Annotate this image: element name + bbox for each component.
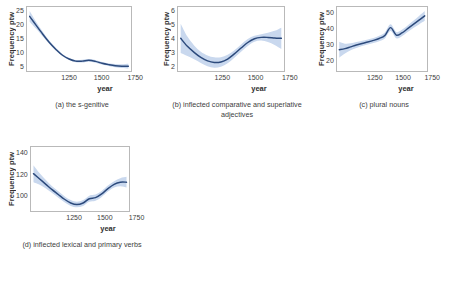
x-tick-label: 1750 [424, 74, 440, 81]
x-tick-label: 1250 [367, 74, 383, 81]
plot-area-a [26, 6, 132, 72]
panel-caption-d: (d) inflected lexical and primary verbs [6, 240, 158, 250]
x-tick-label: 1250 [61, 74, 77, 81]
trend-line-a [29, 16, 128, 66]
chart-panel-b: Frequency ptw 6 5 4 3 2 1250 1500 [161, 6, 313, 120]
confidence-band-a [29, 11, 128, 69]
y-tick-label: 5 [171, 22, 175, 28]
x-tick-label: 1500 [97, 214, 113, 221]
x-axis-ticks-b: 1250 1500 1750 [205, 72, 313, 83]
y-tick-label: 4 [171, 36, 175, 42]
y-axis-label-b: Frequency ptw [161, 6, 171, 72]
x-tick-label: 1500 [395, 74, 411, 81]
y-tick-label: 5 [20, 64, 24, 70]
y-axis-ticks-d: 140 120 100 [16, 146, 30, 212]
panel-caption-a: (a) the s-genitive [6, 100, 158, 110]
y-tick-label: 50 [326, 10, 334, 16]
x-tick-label: 1500 [248, 74, 264, 81]
y-axis-label-c: Frequency ptw [316, 6, 326, 72]
x-tick-label: 1250 [215, 74, 231, 81]
chart-panel-c: Frequency ptw 50 40 30 20 1250 1500 17 [316, 6, 452, 110]
y-axis-ticks-c: 50 40 30 20 [326, 6, 336, 72]
plot-area-d [30, 146, 130, 212]
confidence-band-c [339, 11, 424, 58]
y-tick-label: 120 [16, 172, 28, 178]
plot-area-b [177, 6, 285, 72]
y-tick-label: 30 [326, 42, 334, 48]
y-tick-label: 6 [171, 8, 175, 14]
x-axis-ticks-d: 1250 1500 1750 [58, 212, 158, 223]
x-axis-label-b: year [205, 84, 313, 93]
confidence-band-b [181, 24, 282, 68]
plot-svg-d [31, 147, 129, 211]
plot-svg-b [178, 7, 284, 71]
chart-panel-a: Frequency ptw 25 20 15 10 5 1250 150 [6, 6, 158, 110]
y-tick-label: 140 [16, 150, 28, 156]
x-axis-label-d: year [58, 224, 158, 233]
y-axis-label-d: Frequency ptw [6, 146, 16, 212]
y-tick-label: 15 [16, 36, 24, 42]
y-tick-label: 3 [171, 50, 175, 56]
y-tick-label: 100 [16, 193, 28, 199]
plot-svg-c [337, 7, 427, 71]
y-tick-label: 10 [16, 50, 24, 56]
plot-area-c [336, 6, 428, 72]
y-axis-ticks-a: 25 20 15 10 5 [16, 6, 26, 72]
y-tick-label: 20 [16, 22, 24, 28]
x-axis-label-c: year [360, 84, 452, 93]
y-axis-label-a: Frequency ptw [6, 6, 16, 72]
x-axis-label-a: year [52, 84, 158, 93]
x-tick-label: 1500 [94, 74, 110, 81]
panel-caption-b: (b) inflected comparative and superlativ… [161, 100, 313, 120]
x-axis-ticks-c: 1250 1500 1750 [360, 72, 452, 83]
y-tick-label: 20 [326, 58, 334, 64]
x-tick-label: 1250 [66, 214, 82, 221]
y-tick-label: 40 [326, 26, 334, 32]
y-tick-label: 25 [16, 8, 24, 14]
x-tick-label: 1750 [282, 74, 298, 81]
y-tick-label: 2 [171, 64, 175, 70]
panel-caption-c: (c) plural nouns [316, 100, 452, 110]
x-tick-label: 1750 [129, 214, 145, 221]
x-axis-ticks-a: 1250 1500 1750 [52, 72, 158, 83]
x-tick-label: 1750 [127, 74, 143, 81]
chart-panel-d: Frequency ptw 140 120 100 1250 1500 1750 [6, 146, 158, 250]
plot-svg-a [27, 7, 131, 71]
figure-panel-grid: Frequency ptw 25 20 15 10 5 1250 150 [0, 0, 457, 282]
